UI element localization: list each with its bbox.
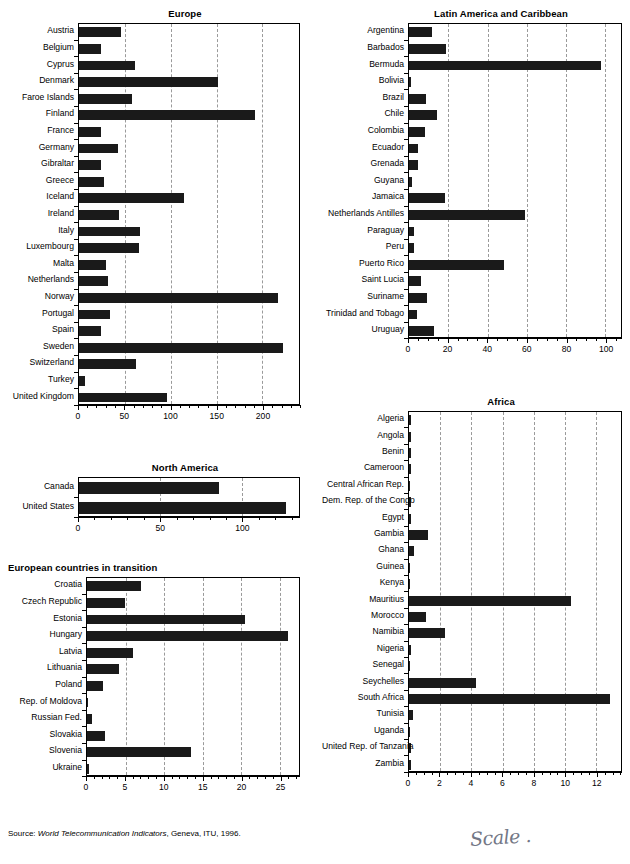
- category-tick: [74, 89, 78, 90]
- category-label: Bolivia: [322, 76, 408, 85]
- bar: [409, 760, 411, 770]
- category-tick: [404, 477, 408, 478]
- chart-title-europe: Europe: [70, 8, 300, 19]
- plot-area: [78, 477, 300, 517]
- axis-minor-tick: [526, 772, 527, 775]
- axis-minor-tick: [517, 338, 518, 341]
- axis-major-tick: [86, 776, 87, 781]
- bar: [409, 160, 418, 170]
- axis-minor-tick: [115, 405, 116, 408]
- axis-scale-european-transition: 0510152025: [86, 776, 300, 794]
- axis-tick-label: 100: [163, 411, 177, 421]
- category-label: Austria: [8, 26, 78, 35]
- category-label: Finland: [8, 109, 78, 118]
- axis-tick-label: 5: [123, 782, 128, 792]
- category-tick: [404, 305, 408, 306]
- category-tick: [404, 493, 408, 494]
- axis-minor-tick: [467, 338, 468, 341]
- bar: [79, 243, 139, 253]
- bar: [79, 276, 108, 286]
- bar: [79, 343, 283, 353]
- axis-tick-label: 20: [237, 782, 247, 792]
- category-label: Croatia: [8, 580, 86, 589]
- axis-minor-tick: [259, 517, 260, 520]
- category-tick: [404, 239, 408, 240]
- axis-tick-label: 4: [469, 778, 474, 788]
- bar: [79, 359, 136, 369]
- axis-minor-tick: [479, 772, 480, 775]
- bar: [409, 193, 445, 203]
- category-tick: [404, 272, 408, 273]
- axis-minor-tick: [447, 772, 448, 775]
- axis-major-tick: [263, 405, 264, 410]
- category-tick: [404, 139, 408, 140]
- category-tick: [82, 627, 86, 628]
- axis-minor-tick: [455, 772, 456, 775]
- axis-tick-label: 150: [210, 411, 224, 421]
- category-tick: [404, 608, 408, 609]
- axis-minor-tick: [87, 405, 88, 408]
- category-label: Gambia: [322, 529, 408, 538]
- bar: [79, 260, 106, 270]
- axis-major-tick: [439, 772, 440, 777]
- axis-minor-tick: [189, 405, 190, 408]
- category-label: Belgium: [8, 43, 78, 52]
- axis-minor-tick: [458, 338, 459, 341]
- source-suffix: , Geneva, ITU, 1996.: [166, 829, 240, 838]
- axis-tick-label: 0: [406, 344, 411, 354]
- axis-minor-tick: [589, 772, 590, 775]
- axis-minor-tick: [292, 517, 293, 520]
- bar-rows-european-transition: CroatiaCzech RepublicEstoniaHungaryLatvi…: [8, 577, 300, 776]
- gridline: [440, 412, 441, 771]
- chart-panel-north-america: North America CanadaUnited States 050100: [8, 462, 300, 535]
- bar: [409, 127, 425, 137]
- bar: [87, 747, 191, 757]
- category-label: Greece: [8, 176, 78, 185]
- category-tick: [404, 206, 408, 207]
- category-label: Slovenia: [8, 746, 86, 755]
- axis-minor-tick: [106, 405, 107, 408]
- axis-minor-tick: [428, 338, 429, 341]
- axis-major-tick: [527, 338, 528, 343]
- axis-major-tick: [281, 776, 282, 781]
- bar-rows-north-america: CanadaUnited States: [8, 477, 300, 517]
- category-tick: [404, 255, 408, 256]
- category-label: Zambia: [322, 759, 408, 768]
- bar: [409, 94, 426, 104]
- bar: [409, 293, 427, 303]
- category-tick: [74, 222, 78, 223]
- axis-tick-label: 60: [522, 344, 532, 354]
- bar: [409, 326, 434, 336]
- axis-tick-label: 100: [599, 344, 613, 354]
- category-tick: [404, 123, 408, 124]
- axis-minor-tick: [140, 776, 141, 779]
- axis-latin-america: 020406080100: [322, 338, 622, 356]
- axis-major-tick: [78, 405, 79, 410]
- axis-minor-tick: [226, 776, 227, 779]
- axis-tick-label: 50: [119, 411, 129, 421]
- bar: [409, 530, 428, 540]
- category-tick: [82, 760, 86, 761]
- axis-tick-label: 100: [235, 523, 249, 533]
- category-label: Nigeria: [322, 644, 408, 653]
- chart-body-europe: AustriaBelgiumCyprusDenmarkFaroe Islands…: [8, 23, 300, 423]
- bar: [79, 293, 278, 303]
- category-tick: [74, 172, 78, 173]
- axis-line: [408, 338, 622, 339]
- axis-scale-europe: 050100150200: [78, 405, 300, 423]
- category-tick: [82, 693, 86, 694]
- category-tick: [404, 559, 408, 560]
- bar: [409, 243, 414, 253]
- category-tick: [82, 610, 86, 611]
- bar: [79, 94, 132, 104]
- axis-tick-label: 6: [500, 778, 505, 788]
- bar: [87, 664, 119, 674]
- bar: [79, 482, 219, 494]
- chart-body-north-america: CanadaUnited States 050100: [8, 477, 300, 535]
- axis-minor-tick: [127, 517, 128, 520]
- axis-europe: 050100150200: [8, 405, 300, 423]
- category-label: Morocco: [322, 611, 408, 620]
- bar-rows-europe: AustriaBelgiumCyprusDenmarkFaroe Islands…: [8, 23, 300, 405]
- axis-minor-tick: [152, 405, 153, 408]
- axis-minor-tick: [605, 772, 606, 775]
